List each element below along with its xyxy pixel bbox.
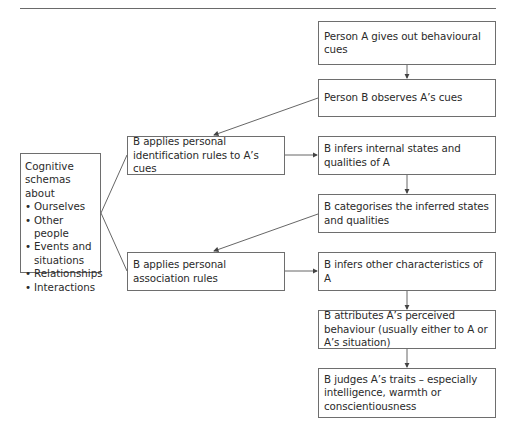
box-text: B applies personal identification rules … bbox=[133, 135, 279, 176]
cognitive-schemas-box: Cognitive schemas about Ourselves Other … bbox=[20, 153, 101, 273]
box-a-gives-cues: Person A gives out behavioural cues bbox=[318, 21, 496, 65]
schemas-heading: Cognitive schemas about bbox=[25, 160, 96, 200]
box-b-attributes: B attributes A’s perceived behaviour (us… bbox=[318, 310, 496, 349]
box-text: B categorises the inferred states and qu… bbox=[324, 200, 490, 227]
box-text: B applies personal association rules bbox=[133, 258, 279, 285]
box-text: B infers internal states and qualities o… bbox=[324, 142, 490, 169]
box-text: Person B observes A’s cues bbox=[324, 91, 462, 105]
box-b-judges: B judges A’s traits – especially intelli… bbox=[318, 368, 496, 418]
schema-item: Ourselves bbox=[25, 200, 96, 213]
box-text: Person A gives out behavioural cues bbox=[324, 30, 490, 57]
box-b-association-rules: B applies personal association rules bbox=[127, 252, 285, 291]
schema-item: Events and situations bbox=[25, 240, 96, 267]
box-b-observes: Person B observes A’s cues bbox=[318, 79, 496, 117]
schema-item: Other people bbox=[25, 214, 96, 241]
box-b-identification-rules: B applies personal identification rules … bbox=[127, 136, 285, 175]
schema-item: Relationships bbox=[25, 267, 96, 280]
schemas-list: Ourselves Other people Events and situat… bbox=[25, 200, 96, 294]
box-b-infers-other: B infers other characteristics of A bbox=[318, 252, 496, 291]
box-b-infers-internal: B infers internal states and qualities o… bbox=[318, 136, 496, 175]
box-text: B attributes A’s perceived behaviour (us… bbox=[324, 309, 490, 350]
schema-item: Interactions bbox=[25, 281, 96, 294]
box-text: B infers other characteristics of A bbox=[324, 258, 490, 285]
box-b-categorises: B categorises the inferred states and qu… bbox=[318, 194, 496, 233]
box-text: B judges A’s traits – especially intelli… bbox=[324, 373, 490, 414]
